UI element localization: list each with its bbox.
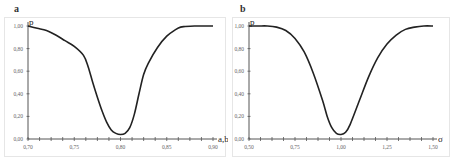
curve-line — [249, 26, 433, 135]
x-tick-label: 0,75 — [69, 144, 79, 150]
y-tick-label: 1,00 — [13, 23, 23, 29]
chart-panel-b: b 0,000,200,400,600,801,000,500,751,001,… — [228, 0, 455, 164]
y-tick-label: 0,20 — [234, 113, 244, 119]
x-axis-title: a,b — [218, 134, 228, 144]
x-tick-label: 1,25 — [382, 144, 392, 150]
curve-line — [28, 26, 213, 135]
x-tick-label: 0,75 — [290, 144, 300, 150]
x-tick-label: 1,50 — [428, 144, 438, 150]
x-tick-label: 0,70 — [23, 144, 33, 150]
x-tick-label: 0,90 — [208, 144, 218, 150]
chart-panel-a: a 0,000,200,400,600,801,000,700,750,800,… — [0, 0, 228, 164]
y-tick-label: 0,60 — [234, 68, 244, 74]
y-tick-label: 0,40 — [234, 91, 244, 97]
y-tick-label: 0,00 — [234, 136, 244, 142]
y-tick-label: 0,40 — [13, 91, 23, 97]
x-axis-title: σ — [438, 134, 443, 144]
y-tick-label: 0,80 — [13, 46, 23, 52]
y-axis-title: p — [29, 17, 34, 27]
y-tick-label: 0,60 — [13, 68, 23, 74]
x-tick-label: 0,85 — [162, 144, 172, 150]
y-tick-label: 0,00 — [13, 136, 23, 142]
line-chart-b: 0,000,200,400,600,801,000,500,751,001,25… — [228, 0, 455, 164]
line-chart-a: 0,000,200,400,600,801,000,700,750,800,85… — [0, 0, 228, 164]
y-tick-label: 1,00 — [234, 23, 244, 29]
x-tick-label: 0,80 — [116, 144, 126, 150]
x-tick-label: 1,00 — [336, 144, 346, 150]
y-tick-label: 0,80 — [234, 46, 244, 52]
y-tick-label: 0,20 — [13, 113, 23, 119]
x-tick-label: 0,50 — [244, 144, 254, 150]
